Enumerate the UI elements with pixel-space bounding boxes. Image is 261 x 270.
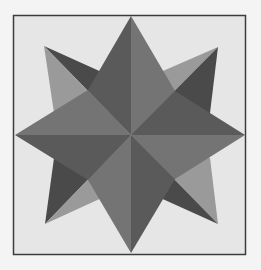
star-artwork — [0, 0, 261, 270]
